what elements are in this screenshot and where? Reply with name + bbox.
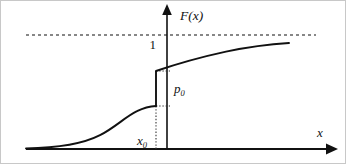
cdf-figure: F(x) x 1 p0 x0: [0, 0, 346, 164]
jump-size-label: p0: [173, 81, 186, 98]
y-axis-label: F(x): [179, 8, 204, 23]
x-axis-label: x: [316, 125, 323, 140]
jump-size-subscript: 0: [181, 88, 186, 98]
figure-canvas: F(x) x 1 p0 x0: [1, 1, 346, 164]
y-axis-arrowhead-icon: [162, 4, 172, 15]
x-axis-arrowhead-icon: [326, 144, 338, 155]
y-axis-label-text: F(x): [179, 8, 204, 23]
level-one-label-text: 1: [150, 37, 157, 52]
level-one-label: 1: [150, 37, 157, 52]
cdf-upper-branch-curve: [156, 43, 289, 71]
x-axis-label-text: x: [316, 125, 323, 140]
jump-point-label: x0: [136, 133, 148, 150]
